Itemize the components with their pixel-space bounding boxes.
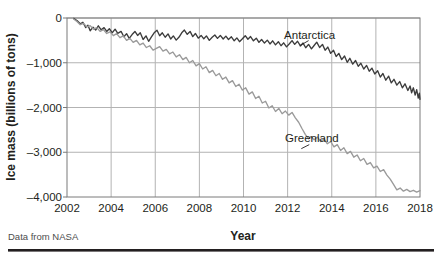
y-tick-label--2000: –2,000	[27, 102, 62, 114]
y-tick-label--1000: –1,000	[27, 57, 62, 69]
x-tick-label-2010: 2010	[231, 202, 257, 214]
ice-mass-chart-figure: 200220042006200820102012201420162018 0–1…	[0, 0, 442, 256]
source-note: Data from NASA	[8, 231, 79, 242]
x-tick-label-2004: 2004	[98, 202, 124, 214]
y-tick-label-0: 0	[56, 12, 62, 24]
y-axis-title: Ice mass (billions of tons)	[4, 33, 18, 180]
y-tick-label--3000: –3,000	[27, 146, 62, 158]
chart-canvas: 200220042006200820102012201420162018 0–1…	[0, 0, 442, 256]
series-label-greenland: Greenland	[285, 132, 339, 144]
x-tick-label-2006: 2006	[142, 202, 168, 214]
x-tick-label-2008: 2008	[187, 202, 213, 214]
y-tick-label--4000: –4,000	[27, 191, 62, 203]
x-tick-label-2016: 2016	[363, 202, 389, 214]
series-label-antarctica: Antarctica	[284, 29, 336, 41]
x-axis-title: Year	[230, 229, 256, 243]
x-axis-tick-labels: 200220042006200820102012201420162018	[54, 202, 433, 214]
x-tick-label-2018: 2018	[407, 202, 433, 214]
x-tick-label-2012: 2012	[275, 202, 301, 214]
x-tick-label-2014: 2014	[319, 202, 345, 214]
bottom-rule	[8, 249, 434, 252]
x-tick-label-2002: 2002	[54, 202, 80, 214]
